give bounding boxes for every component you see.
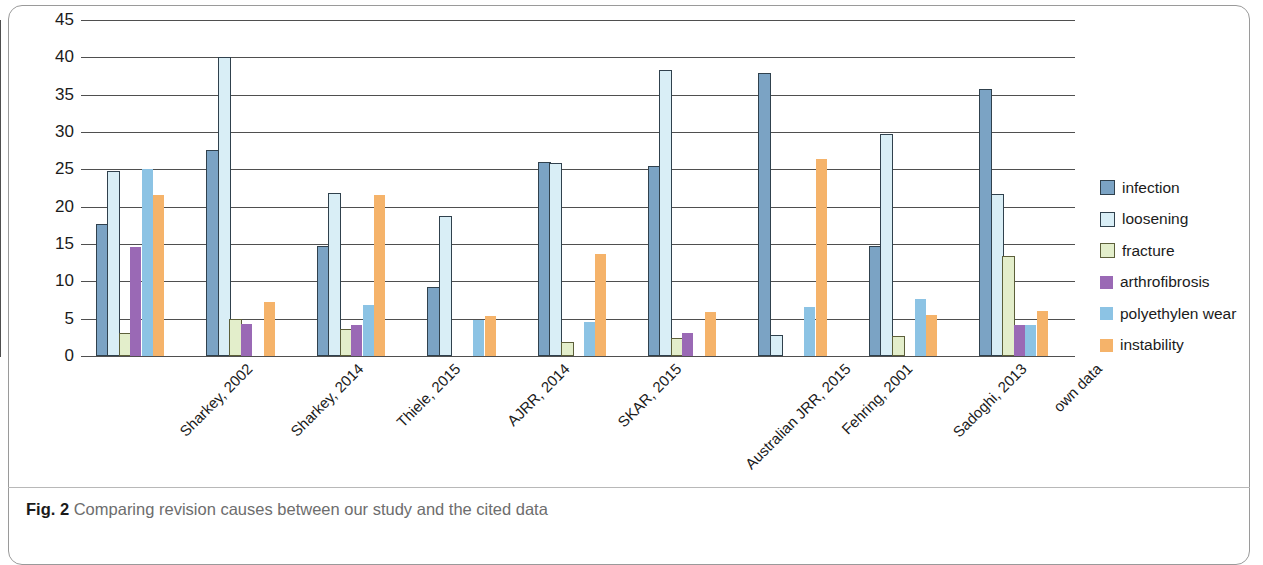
y-axis-tick-labels: 051015202530354045 — [36, 20, 74, 356]
bar — [218, 57, 231, 356]
y-tick-label: 35 — [40, 85, 74, 105]
y-tick-label: 45 — [40, 10, 74, 30]
bar — [1014, 325, 1025, 356]
bar — [439, 216, 452, 356]
bar — [264, 302, 275, 356]
figure-caption: Fig. 2 Comparing revision causes between… — [26, 500, 548, 519]
bar — [1025, 325, 1036, 356]
bar-group — [758, 20, 827, 356]
bar — [816, 159, 827, 356]
legend-item[interactable]: polyethylen wear — [1100, 298, 1250, 330]
x-tick-label: Sadoghi, 2013 — [950, 360, 1030, 440]
y-tick-mark — [0, 20, 1, 21]
bar — [549, 163, 562, 356]
legend-item[interactable]: arthrofibrosis — [1100, 267, 1250, 299]
y-tick-label: 20 — [40, 197, 74, 217]
x-tick-label: own data — [1050, 360, 1105, 415]
legend-label: polyethylen wear — [1120, 305, 1236, 323]
y-tick-mark — [0, 95, 1, 96]
y-tick-mark — [0, 169, 1, 170]
bar — [659, 70, 672, 356]
legend-swatch-icon — [1100, 339, 1113, 352]
y-tick-mark — [0, 132, 1, 133]
y-tick-mark — [0, 57, 1, 58]
legend-label: loosening — [1122, 210, 1188, 228]
bar — [584, 322, 595, 356]
y-tick-label: 5 — [40, 309, 74, 329]
x-tick-label: AJRR, 2014 — [503, 360, 572, 429]
gridline — [81, 356, 1075, 357]
bar-group — [317, 20, 386, 356]
y-tick-label: 25 — [40, 159, 74, 179]
legend-swatch-icon — [1100, 307, 1113, 320]
bar-group — [206, 20, 275, 356]
legend-label: arthrofibrosis — [1120, 273, 1210, 291]
y-tick-mark — [0, 319, 1, 320]
bar — [485, 316, 496, 356]
bar-group — [427, 20, 496, 356]
legend: infectionlooseningfracturearthrofibrosis… — [1100, 172, 1250, 361]
bar — [926, 315, 937, 356]
legend-swatch-icon — [1100, 243, 1115, 258]
bar — [374, 195, 385, 356]
bar — [595, 254, 606, 356]
legend-item[interactable]: infection — [1100, 172, 1250, 204]
bar — [804, 307, 815, 356]
legend-label: infection — [1122, 179, 1180, 197]
x-tick-label: Sharkey, 2002 — [176, 360, 256, 440]
legend-swatch-icon — [1100, 212, 1115, 227]
bar — [892, 336, 905, 356]
x-tick-label: Sharkey, 2014 — [287, 360, 367, 440]
y-tick-mark — [0, 281, 1, 282]
y-tick-label: 15 — [40, 234, 74, 254]
legend-label: instability — [1120, 336, 1184, 354]
figure-caption-prefix: Fig. 2 — [26, 500, 69, 518]
y-tick-label: 10 — [40, 271, 74, 291]
bar — [351, 325, 362, 356]
legend-swatch-icon — [1100, 276, 1113, 289]
bar — [915, 299, 926, 356]
legend-swatch-icon — [1100, 180, 1115, 195]
bar — [130, 247, 141, 356]
x-tick-label: SKAR, 2015 — [614, 360, 684, 430]
legend-label: fracture — [1122, 242, 1175, 260]
x-tick-label: Thiele, 2015 — [393, 360, 463, 430]
bar-group — [96, 20, 165, 356]
y-tick-mark — [0, 207, 1, 208]
legend-item[interactable]: loosening — [1100, 204, 1250, 236]
x-tick-label: Australian JRR, 2015 — [742, 360, 854, 472]
bar — [142, 169, 153, 356]
bar-group — [538, 20, 607, 356]
figure-caption-text: Comparing revision causes between our st… — [74, 500, 548, 518]
bar — [241, 324, 252, 356]
legend-item[interactable]: fracture — [1100, 235, 1250, 267]
bar — [1037, 311, 1048, 356]
bar-group — [979, 20, 1048, 356]
legend-item[interactable]: instability — [1100, 330, 1250, 362]
bar — [107, 171, 120, 356]
bar — [153, 195, 164, 356]
bar — [561, 342, 574, 356]
bar — [363, 305, 374, 356]
plot-area — [81, 20, 1075, 356]
caption-divider — [8, 487, 1250, 488]
y-tick-label: 40 — [40, 47, 74, 67]
y-tick-label: 30 — [40, 122, 74, 142]
bar — [880, 134, 893, 356]
bar — [770, 335, 783, 356]
bar — [758, 73, 771, 356]
x-axis-tick-labels: Sharkey, 2002Sharkey, 2014Thiele, 2015AJ… — [0, 360, 1263, 480]
bar — [705, 312, 716, 356]
bar — [682, 333, 693, 356]
bar-group — [648, 20, 717, 356]
y-axis-line — [0, 20, 1, 356]
y-tick-mark — [0, 244, 1, 245]
bar — [473, 320, 484, 356]
bar-group — [869, 20, 938, 356]
y-tick-mark — [0, 356, 1, 357]
